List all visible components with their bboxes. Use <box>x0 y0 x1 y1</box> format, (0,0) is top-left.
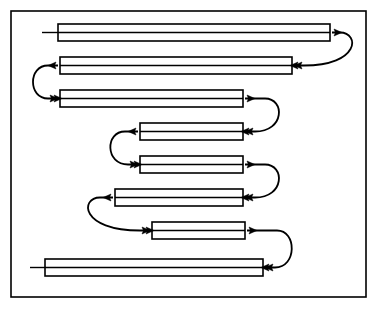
bar-6[interactable] <box>115 189 243 206</box>
bar-5[interactable] <box>140 156 243 173</box>
bar-1[interactable] <box>42 24 330 41</box>
bar-2[interactable] <box>60 57 292 74</box>
bar-7[interactable] <box>152 222 245 239</box>
bar-4[interactable] <box>140 123 243 140</box>
bar-8[interactable] <box>30 259 263 276</box>
diagram-page <box>0 0 378 309</box>
serpentine-bar-flow-diagram <box>0 0 378 309</box>
bar-3[interactable] <box>60 90 243 107</box>
